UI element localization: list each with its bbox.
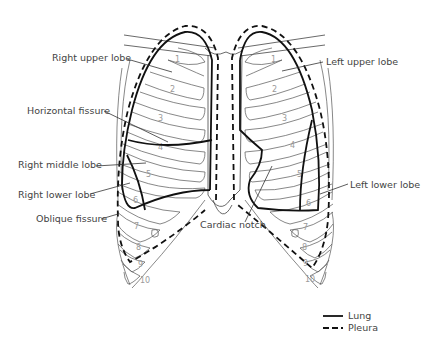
right-lung-outline <box>122 32 212 210</box>
rib-number: 8 <box>302 243 307 252</box>
rib-number: 7 <box>303 223 308 232</box>
left-lung-outline <box>240 32 319 211</box>
rib-number: 1 <box>271 55 276 64</box>
rib-number: 2 <box>272 85 277 94</box>
lung-pleura-diagram: 1 2 3 4 5 6 7 8 9 10 1 2 3 4 5 6 7 8 9 1… <box>0 0 435 342</box>
label-right-upper-lobe: Right upper lobe <box>52 52 131 63</box>
rib-number: 10 <box>305 275 315 284</box>
rib-number: 6 <box>306 199 311 208</box>
rib-number: 6 <box>133 196 138 205</box>
rib-number: 8 <box>136 243 141 252</box>
label-cardiac-notch: Cardiac notch <box>200 219 266 230</box>
label-oblique-fissure: Oblique fissure <box>36 213 107 224</box>
right-ribs <box>117 48 206 288</box>
label-right-lower-lobe: Right lower lobe <box>18 189 96 200</box>
rib-numbers-left: 1 2 3 4 5 6 7 8 9 10 <box>271 55 315 284</box>
rib-number: 2 <box>170 85 175 94</box>
rib-number: 10 <box>140 276 150 285</box>
rib-number: 4 <box>290 141 295 150</box>
rib-numbers-right: 1 2 3 4 5 6 7 8 9 10 <box>133 55 180 285</box>
label-horizontal-fissure: Horizontal fissure <box>27 105 110 116</box>
rib-number: 7 <box>134 222 139 231</box>
legend-label-lung: Lung <box>348 310 371 321</box>
legend: Lung Pleura <box>323 310 378 333</box>
rib-number: 9 <box>138 260 143 269</box>
rib-number: 3 <box>158 114 163 123</box>
label-left-upper-lobe: Left upper lobe <box>326 56 398 67</box>
rib-number: 1 <box>175 55 180 64</box>
labels: Right upper lobe Horizontal fissure Righ… <box>18 52 420 230</box>
label-right-middle-lobe: Right middle lobe <box>18 159 102 170</box>
label-left-lower-lobe: Left lower lobe <box>350 179 420 190</box>
legend-label-pleura: Pleura <box>348 322 378 333</box>
rib-number: 3 <box>282 114 287 123</box>
rib-number: 5 <box>146 170 151 179</box>
